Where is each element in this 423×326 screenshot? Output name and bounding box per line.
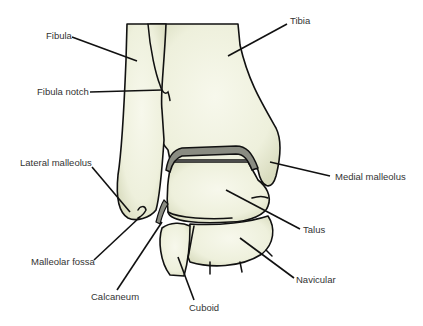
talus-bone: [167, 162, 269, 223]
ankle-svg: Fibula Fibula notch Lateral malleolus Ma…: [0, 0, 423, 326]
leader-malleolar-fossa: [94, 217, 140, 260]
label-malleolar-fossa: Malleolar fossa: [31, 256, 96, 267]
label-fibula: Fibula: [46, 30, 73, 41]
label-medial-malleolus: Medial malleolus: [335, 171, 406, 182]
navicular-bone: [187, 216, 273, 266]
fibula-bone: [117, 24, 166, 220]
label-cuboid: Cuboid: [189, 302, 219, 313]
calcaneum-bone: [160, 223, 190, 276]
label-calcaneum: Calcaneum: [91, 291, 139, 302]
label-lateral-malleolus: Lateral malleolus: [20, 157, 92, 168]
ankle-diagram: Fibula Fibula notch Lateral malleolus Ma…: [0, 0, 423, 326]
label-tibia: Tibia: [290, 15, 311, 26]
leader-medial-malleolus: [270, 162, 330, 176]
label-talus: Talus: [303, 224, 325, 235]
label-navicular: Navicular: [296, 274, 336, 285]
tarsal-line-4: [266, 250, 272, 256]
label-fibula-notch: Fibula notch: [37, 86, 89, 97]
